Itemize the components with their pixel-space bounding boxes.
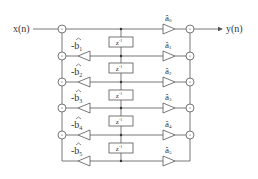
coef-b3: -b3 bbox=[71, 92, 82, 104]
coef-a1: â1 bbox=[165, 40, 172, 50]
gain-triangle-icon bbox=[163, 103, 175, 113]
coef-a4: â4 bbox=[165, 119, 172, 129]
input-label: x(n) bbox=[13, 23, 30, 35]
gain-triangle-icon bbox=[163, 51, 175, 61]
gain-triangle-icon bbox=[78, 77, 90, 87]
coef-b1: -b1 bbox=[71, 40, 82, 52]
coef-a3: â3 bbox=[165, 92, 172, 102]
coef-b5: -b5 bbox=[71, 145, 82, 157]
gain-triangle-icon bbox=[78, 51, 90, 61]
output-label: y(n) bbox=[226, 23, 243, 35]
filter-diagram: z-1 z-1 z-1 z-1 z-1 x(n) y(n) -b1 -b2 -b… bbox=[0, 0, 258, 179]
coef-a0: â0 bbox=[165, 13, 172, 23]
gain-triangle-icon bbox=[163, 130, 175, 140]
coef-a5: â5 bbox=[165, 145, 172, 155]
gain-triangle-icon bbox=[78, 130, 90, 140]
coef-b2: -b2 bbox=[71, 66, 82, 78]
gain-triangle-icon bbox=[78, 156, 90, 166]
gain-triangle-icon bbox=[163, 77, 175, 87]
coef-a2: â2 bbox=[165, 66, 172, 76]
coef-b4: -b4 bbox=[71, 119, 82, 131]
gain-triangle-icon bbox=[163, 156, 175, 166]
gain-triangle-icon bbox=[78, 103, 90, 113]
gain-triangle-icon bbox=[163, 24, 175, 34]
